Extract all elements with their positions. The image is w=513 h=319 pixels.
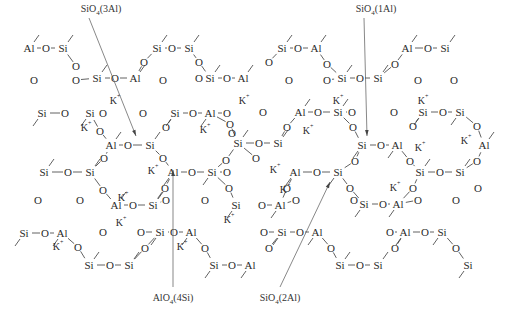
bond-stub	[94, 252, 99, 259]
atom-si: Si	[333, 166, 342, 178]
bond-stub	[321, 35, 326, 42]
atom-si: Si	[373, 259, 382, 271]
atom-si: Si	[19, 227, 28, 239]
atom-o: O	[162, 194, 170, 206]
bond-stub	[343, 99, 348, 106]
pointer-line	[280, 182, 330, 287]
atom-o: O	[406, 155, 414, 167]
bond-stub	[450, 35, 455, 42]
bond-line	[272, 54, 276, 58]
pointer-line	[364, 18, 367, 136]
atom-o: O	[349, 121, 357, 133]
bond-stub	[433, 238, 438, 245]
atom-si: Si	[359, 198, 368, 210]
atom-al: Al	[57, 227, 68, 239]
atom-al: Al	[311, 42, 322, 54]
atom-o: O	[137, 226, 145, 238]
bond-line	[345, 164, 351, 168]
bond-stub	[68, 35, 73, 42]
atom-si: Si	[233, 137, 242, 149]
atom-o: O	[255, 137, 263, 149]
potassium-ion: K+	[239, 93, 250, 106]
atom-al: Al	[205, 107, 216, 119]
bond-stub	[305, 99, 310, 106]
bond-stub	[34, 35, 39, 42]
atom-si: Si	[170, 107, 179, 119]
atom-al: Al	[24, 42, 35, 54]
atom-o: O	[34, 194, 42, 206]
aluminosilicate-structure-diagram: AlOSiOOOSiOAlOSiOSiOOOSiOAlOSiOAlOOOSiOS…	[0, 0, 513, 319]
potassium-ion: K+	[303, 123, 314, 136]
potassium-ion: K+	[53, 239, 64, 252]
atom-o: O	[140, 56, 148, 68]
atom-o: O	[159, 74, 167, 86]
atom-o: O	[379, 198, 387, 210]
atom-o: O	[414, 194, 422, 206]
atom-labels: AlOSiOOOSiOAlOSiOSiOOOSiOAlOSiOAlOOOSiOS…	[19, 42, 489, 271]
potassium-ion: K+	[81, 120, 92, 133]
atom-al: Al	[393, 198, 404, 210]
bond-stub	[49, 159, 54, 166]
atom-o: O	[159, 152, 167, 164]
atom-si: Si	[155, 226, 164, 238]
atom-si: Si	[455, 166, 464, 178]
atom-al: Al	[130, 72, 141, 84]
bond-stub	[194, 35, 199, 42]
atom-si: Si	[463, 259, 472, 271]
atom-si: Si	[39, 166, 48, 178]
atom-o: O	[346, 182, 354, 194]
atom-o: O	[409, 182, 417, 194]
atom-o: O	[223, 166, 231, 178]
atom-o: O	[356, 72, 364, 84]
atom-si: Si	[85, 166, 94, 178]
atom-o: O	[201, 242, 209, 254]
potassium-ion: K+	[415, 140, 426, 153]
potassium-ion: K+	[418, 93, 429, 106]
annotation-sio4-1al: SiO4(1Al)	[356, 3, 397, 17]
atom-o: O	[414, 74, 422, 86]
bond-line	[406, 201, 413, 202]
atom-o: O	[292, 194, 300, 206]
potassium-ion: K+	[333, 93, 344, 106]
atom-o: O	[285, 74, 293, 86]
atom-o: O	[473, 155, 481, 167]
atom-o: O	[258, 199, 266, 211]
atom-al: Al	[238, 72, 249, 84]
bond-stub	[241, 271, 246, 278]
atom-o: O	[323, 74, 331, 86]
atom-o: O	[452, 242, 460, 254]
bond-stub	[155, 132, 160, 139]
atom-o: O	[265, 242, 273, 254]
atom-o: O	[390, 106, 398, 118]
atom-o: O	[391, 242, 399, 254]
atom-o: O	[450, 74, 458, 86]
atom-o: O	[327, 242, 335, 254]
atom-si: Si	[357, 139, 366, 151]
atom-o: O	[42, 42, 50, 54]
bond-stub	[287, 35, 292, 42]
bond-stub	[345, 252, 350, 259]
bond-stub	[116, 132, 121, 139]
bond-stub	[355, 210, 360, 217]
atom-o: O	[76, 194, 84, 206]
atom-si: Si	[455, 106, 464, 118]
atom-si: Si	[231, 199, 240, 211]
bond-stub	[329, 178, 334, 185]
bond-stub	[243, 130, 248, 137]
atom-si: Si	[37, 107, 46, 119]
atom-si: Si	[440, 42, 449, 54]
bond-stub	[465, 159, 470, 166]
atom-o: O	[201, 194, 209, 206]
atom-o: O	[391, 58, 399, 70]
atom-o: O	[223, 72, 231, 84]
atom-al: Al	[295, 106, 306, 118]
atom-o: O	[189, 107, 197, 119]
atom-si: Si	[148, 199, 157, 211]
atom-o: O	[313, 166, 321, 178]
annotation-sio4-2al: SiO4(2Al)	[260, 292, 301, 306]
atom-si: Si	[205, 72, 214, 84]
atom-o: O	[188, 166, 196, 178]
bond-line	[288, 202, 292, 203]
atom-o: O	[61, 107, 69, 119]
atom-si: Si	[373, 72, 382, 84]
